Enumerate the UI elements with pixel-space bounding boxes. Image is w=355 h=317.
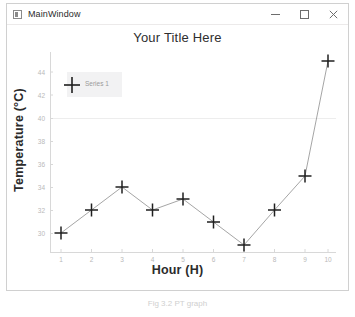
minimize-button[interactable] [261,4,290,25]
x-tick-label-9: 9 [299,256,311,263]
x-tick-label-3: 3 [116,256,128,263]
figure-caption: Fig 3.2 PT graph [0,299,355,309]
x-tick-label-5: 5 [177,256,189,263]
window-controls [261,4,348,25]
legend-marker-icon [63,76,81,94]
y-tick-label-44: 44 [31,69,45,76]
y-tick-label-30: 30 [31,230,45,237]
maximize-icon [299,9,310,20]
plot-area: Series 1 [50,52,336,253]
y-tick-label-34: 34 [31,184,45,191]
close-icon [328,9,339,20]
data-point-5 [177,193,190,206]
y-axis-label: Temperature (°C) [12,65,26,215]
y-tick-label-38: 38 [31,138,45,145]
main-window: MainWindow [6,3,349,291]
chart-legend[interactable]: Series 1 [67,72,122,97]
data-point-4 [146,204,159,217]
x-tick-label-2: 2 [86,256,98,263]
screenshot-root: MainWindow [0,0,355,317]
window-icon [13,10,22,19]
y-tick-label-40: 40 [31,115,45,122]
y-tick-label-42: 42 [31,92,45,99]
data-point-6 [207,216,220,229]
y-tick-label-32: 32 [31,207,45,214]
data-point-3 [116,181,129,194]
x-tick-label-10: 10 [322,256,334,263]
y-tick-label-36: 36 [31,161,45,168]
minimize-icon [270,9,281,20]
x-tick-label-6: 6 [208,256,220,263]
maximize-button[interactable] [290,4,319,25]
legend-item-label: Series 1 [85,80,109,87]
data-point-10 [322,55,335,68]
chart-title: Your Title Here [7,30,348,45]
data-point-1 [55,227,68,240]
x-axis-label: Hour (H) [7,263,348,277]
window-title: MainWindow [28,9,81,19]
window-titlebar[interactable]: MainWindow [7,4,348,25]
x-tick-label-4: 4 [147,256,159,263]
close-button[interactable] [319,4,348,25]
x-tick-label-8: 8 [269,256,281,263]
x-tick-label-1: 1 [55,256,67,263]
data-point-2 [85,204,98,217]
x-tick-label-7: 7 [238,256,250,263]
chart-canvas: Your Title Here Temperature (°C) Hour (H… [7,25,348,290]
